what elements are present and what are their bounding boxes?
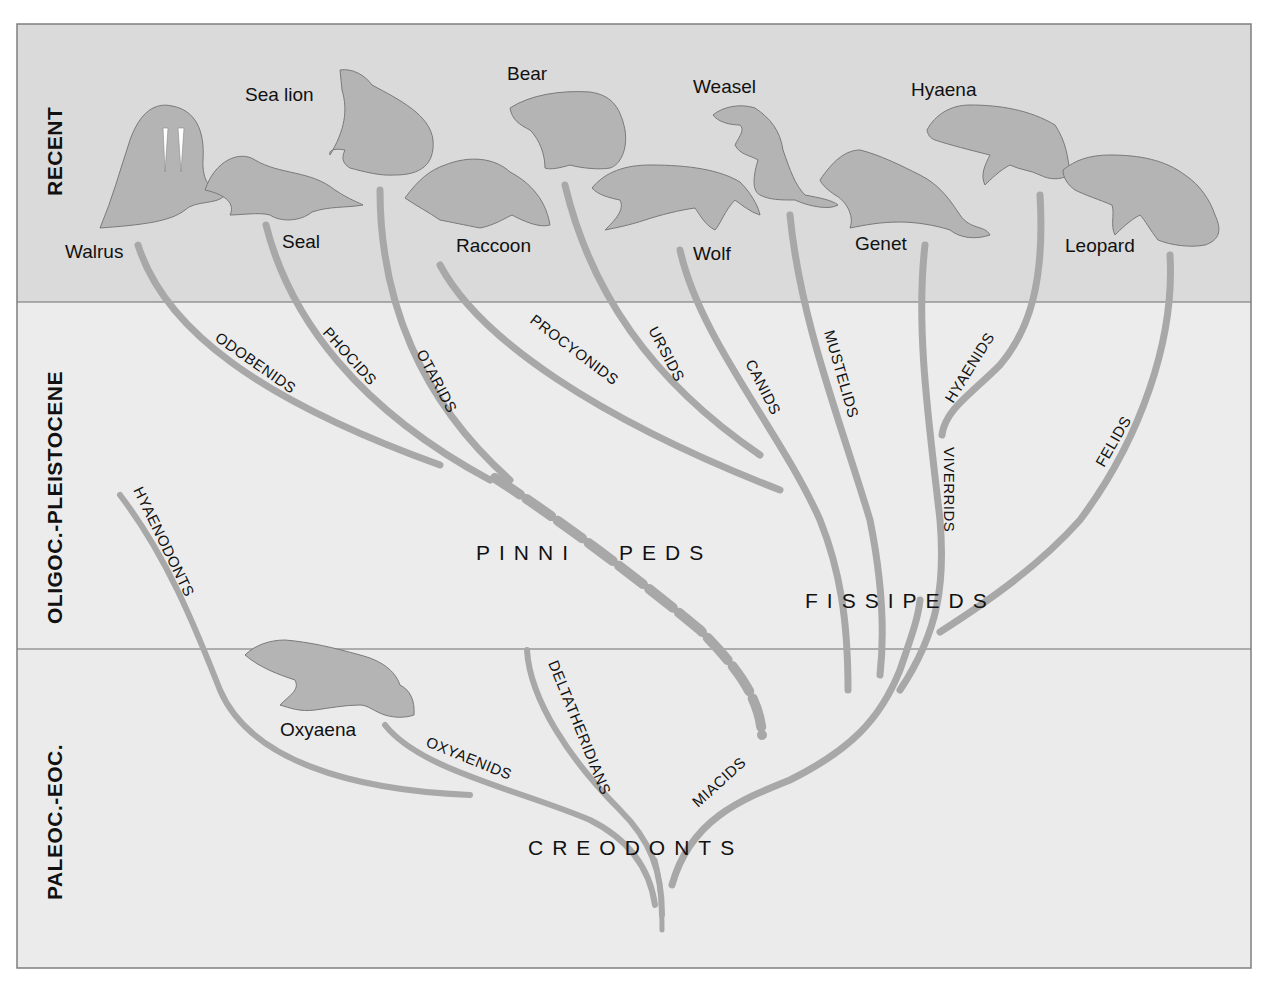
label-genet: Genet xyxy=(855,233,907,254)
label-bear: Bear xyxy=(507,63,548,84)
group-fissipeds: FISSIPEDS xyxy=(805,589,996,612)
band-paleoc-eoc xyxy=(17,649,1251,968)
era-label-paleoc-eoc: PALEOC.-EOC. xyxy=(43,744,66,900)
era-label-oligoc-pleistocene: OLIGOC.-PLEISTOCENE xyxy=(43,371,66,624)
phylogeny-diagram: RECENT OLIGOC.-PLEISTOCENE PALEOC.-EOC. xyxy=(0,0,1269,982)
label-leopard: Leopard xyxy=(1065,235,1135,256)
label-weasel: Weasel xyxy=(693,76,756,97)
label-raccoon: Raccoon xyxy=(456,235,531,256)
group-creodonts: CREODONTS xyxy=(528,836,743,859)
clade-viverrids: VIVERRIDS xyxy=(941,447,958,532)
group-pinnipeds-part1: PINNI xyxy=(476,541,577,564)
label-walrus: Walrus xyxy=(65,241,123,262)
label-sea-lion: Sea lion xyxy=(245,84,314,105)
label-oxyaena: Oxyaena xyxy=(280,719,356,740)
label-wolf: Wolf xyxy=(693,243,731,264)
band-oligoc-pleistocene xyxy=(17,302,1251,649)
label-seal: Seal xyxy=(282,231,320,252)
group-pinnipeds-part2: PEDS xyxy=(619,541,712,564)
label-hyaena: Hyaena xyxy=(911,79,977,100)
era-label-recent: RECENT xyxy=(43,107,66,196)
